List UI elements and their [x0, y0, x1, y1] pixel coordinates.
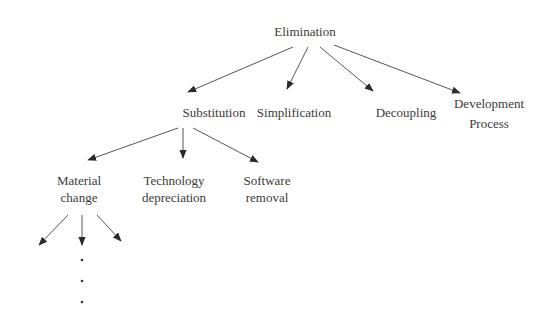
edge-elimination-substitution [188, 47, 293, 92]
node-technology-depreciation: Technology depreciation [142, 172, 206, 206]
node-label-line-1: Technology [142, 172, 206, 189]
node-label: Elimination [274, 24, 335, 40]
edge-material-change-right [97, 215, 121, 241]
node-label: Substitution [183, 105, 246, 121]
node-material-change: Material change [57, 172, 101, 206]
node-label-line-2: depreciation [142, 189, 206, 206]
vertical-ellipsis [81, 259, 84, 304]
node-substitution: Substitution [183, 105, 246, 121]
node-label-line-2: change [57, 189, 101, 206]
node-elimination: Elimination [274, 24, 335, 40]
edge-elimination-decoupling [320, 47, 373, 91]
edge-material-change-left [39, 215, 68, 245]
node-label-line-1: Material [57, 172, 101, 189]
node-label-line-1: Development [454, 94, 524, 114]
node-label: Decoupling [376, 105, 437, 121]
node-label-line-2: removal [244, 189, 291, 206]
node-label: Simplification [257, 105, 331, 121]
node-decoupling: Decoupling [376, 105, 437, 121]
edge-elimination-development-process [334, 45, 460, 93]
node-simplification: Simplification [257, 105, 331, 121]
edge-substitution-software-removal [193, 128, 258, 162]
edge-elimination-simplification [287, 47, 308, 89]
node-software-removal: Software removal [244, 172, 291, 206]
diagram-edges [0, 0, 533, 318]
node-label-line-2: Process [454, 114, 524, 134]
edge-substitution-material-change [88, 128, 178, 160]
node-label-line-1: Software [244, 172, 291, 189]
node-development-process: Development Process [454, 94, 524, 134]
